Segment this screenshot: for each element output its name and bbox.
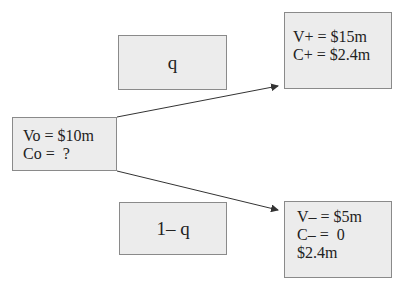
down-state-call: C– = 0 xyxy=(297,226,391,244)
up-state-call: C+ = $2.4m xyxy=(293,46,391,64)
up-state-value: V+ = $15m xyxy=(293,28,391,46)
down-probability-box: 1– q xyxy=(119,202,227,255)
arrow-up xyxy=(117,86,278,117)
down-state-extra: $2.4m xyxy=(297,244,391,262)
up-state-box: V+ = $15m C+ = $2.4m xyxy=(284,12,392,89)
up-probability-box: q xyxy=(118,35,227,90)
down-state-box: V– = $5m C– = 0 $2.4m xyxy=(284,201,392,278)
root-state-box: Vo = $10m Co = ? xyxy=(12,117,117,171)
down-probability-label: 1– q xyxy=(156,220,189,238)
root-call: Co = ? xyxy=(23,145,116,163)
down-state-value: V– = $5m xyxy=(297,208,391,226)
root-value: Vo = $10m xyxy=(23,127,116,145)
up-probability-label: q xyxy=(168,54,178,72)
